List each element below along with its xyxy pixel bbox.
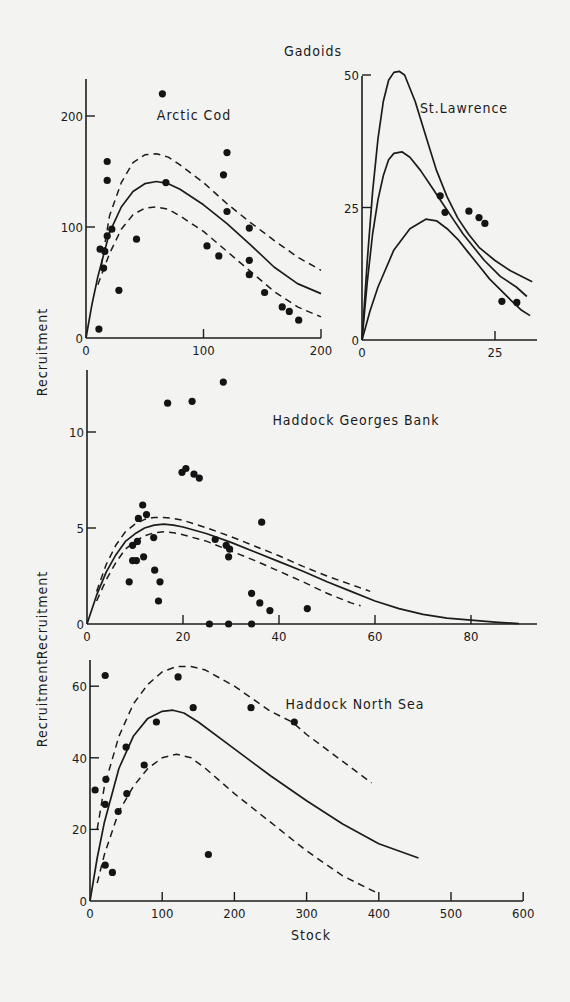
x-tick-label: 300 (295, 906, 317, 921)
data-point (190, 704, 197, 711)
x-tick-label: 500 (440, 906, 462, 921)
data-point (141, 761, 148, 768)
data-point (95, 326, 102, 333)
figure: Gadoids Recruitment Recruitment Recruitm… (0, 0, 570, 1002)
plot-canvas: Gadoids Recruitment Recruitment Recruitm… (0, 0, 570, 1002)
data-point (465, 208, 472, 215)
data-point (140, 553, 147, 560)
panel-haddock-georges-bank: 0204060800510Haddock Georges Bank (69, 370, 537, 644)
data-point (205, 851, 212, 858)
curve-lower-bound (97, 754, 379, 894)
data-point (220, 171, 227, 178)
data-point (126, 578, 133, 585)
data-point (115, 287, 122, 294)
data-point (248, 590, 255, 597)
data-point (129, 542, 136, 549)
data-point (223, 208, 230, 215)
x-tick-label: 100 (192, 343, 214, 358)
curve-upper-bound (97, 517, 371, 591)
x-tick-label: 600 (512, 906, 534, 921)
data-point (104, 177, 111, 184)
data-point (203, 242, 210, 249)
data-point (143, 511, 150, 518)
panel-title: Arctic Cod (157, 107, 231, 123)
data-point (101, 248, 108, 255)
x-tick-label: 100 (151, 906, 173, 921)
data-point (215, 252, 222, 259)
data-point (109, 869, 116, 876)
data-point (156, 578, 163, 585)
x-tick-label: 80 (464, 629, 479, 644)
data-point (102, 776, 109, 783)
data-point (153, 718, 160, 725)
data-point (102, 672, 109, 679)
panel-arctic-cod: 01002000100200Arctic Cod (61, 79, 332, 358)
data-point (104, 232, 111, 239)
data-point (104, 158, 111, 165)
x-tick-label: 0 (82, 343, 89, 358)
data-point (92, 786, 99, 793)
x-tick-label: 200 (223, 906, 245, 921)
data-point (162, 179, 169, 186)
panel-title: Haddock Georges Bank (272, 412, 439, 428)
data-point (159, 90, 166, 97)
data-point (196, 475, 203, 482)
data-point (133, 557, 140, 564)
data-point (133, 236, 140, 243)
y-tick-label: 50 (344, 68, 359, 83)
y-tick-label: 100 (61, 220, 83, 235)
x-tick-label: 60 (368, 629, 383, 644)
x-tick-label: 400 (368, 906, 390, 921)
data-point (135, 515, 142, 522)
data-point (246, 225, 253, 232)
data-point (437, 192, 444, 199)
data-point (441, 209, 448, 216)
data-point (248, 620, 255, 627)
data-point (189, 398, 196, 405)
data-point (258, 519, 265, 526)
x-tick-label: 20 (176, 629, 191, 644)
data-point (304, 605, 311, 612)
data-point (182, 465, 189, 472)
data-point (291, 718, 298, 725)
data-point (150, 534, 157, 541)
curve-middle (362, 152, 527, 340)
x-tick-label: 0 (83, 629, 90, 644)
x-tick-label: 200 (310, 343, 332, 358)
data-point (115, 808, 122, 815)
data-point (100, 265, 107, 272)
y-tick-label: 200 (61, 109, 83, 124)
data-point (481, 220, 488, 227)
y-tick-label: 25 (344, 201, 359, 216)
data-point (256, 599, 263, 606)
data-point (206, 620, 213, 627)
data-point (139, 501, 146, 508)
y-tick-label: 0 (76, 331, 83, 346)
data-point (102, 801, 109, 808)
data-point (225, 553, 232, 560)
data-point (247, 704, 254, 711)
y-tick-label: 10 (69, 425, 84, 440)
data-point (108, 226, 115, 233)
y-axis-label-bottom: Recruitment (34, 659, 50, 747)
data-point (223, 149, 230, 156)
data-point (286, 308, 293, 315)
x-tick-label: 25 (488, 345, 503, 360)
data-point (295, 317, 302, 324)
y-tick-label: 0 (77, 617, 84, 632)
y-tick-label: 0 (80, 894, 87, 909)
data-point (123, 744, 130, 751)
curve-fitted (90, 710, 419, 901)
data-point (225, 620, 232, 627)
panel-title: St.Lawrence (420, 100, 508, 116)
data-point (261, 289, 268, 296)
curve-lower-bound (98, 207, 321, 317)
y-tick-label: 20 (72, 822, 87, 837)
y-axis-label-middle: Recruitment (34, 571, 50, 659)
data-point (498, 298, 505, 305)
data-point (220, 379, 227, 386)
y-tick-label: 40 (72, 751, 87, 766)
data-point (155, 597, 162, 604)
data-point (123, 790, 130, 797)
panel-title: Haddock North Sea (286, 696, 425, 712)
